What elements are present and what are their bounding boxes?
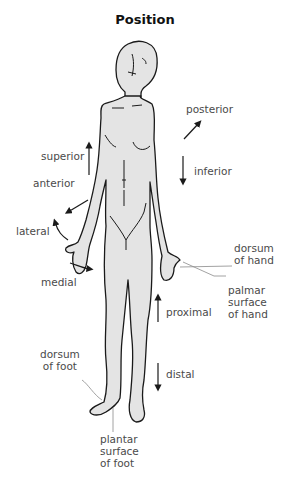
anterior-arrow (68, 200, 88, 212)
label-palmar-surface-of-hand: palmar surface of hand (228, 284, 268, 320)
lateral-arrow (55, 222, 68, 240)
dorsum-hand-leader (180, 266, 232, 267)
label-posterior: posterior (186, 103, 233, 115)
label-medial: medial (41, 276, 77, 288)
label-dorsum-of-foot: dorsum of foot (40, 348, 80, 372)
posterior-arrow (184, 123, 199, 139)
body (66, 96, 180, 422)
label-lateral: lateral (16, 225, 50, 237)
label-dorsum-of-hand: dorsum of hand (234, 242, 274, 266)
palmar-leader (183, 262, 226, 276)
label-plantar-surface-of-foot: plantar surface of foot (100, 433, 139, 469)
label-anterior: anterior (33, 177, 75, 189)
head (116, 41, 157, 98)
dorsum-foot-leader (82, 380, 102, 400)
label-inferior: inferior (194, 165, 232, 177)
label-proximal: proximal (166, 306, 212, 318)
body-silhouette (66, 41, 180, 422)
label-superior: superior (41, 150, 84, 162)
label-distal: distal (166, 368, 195, 380)
